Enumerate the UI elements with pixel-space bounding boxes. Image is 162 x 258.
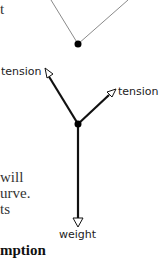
junction-dot bbox=[75, 121, 82, 128]
left-tension-arrowhead-icon bbox=[45, 68, 53, 78]
hanging-point-dot bbox=[75, 41, 82, 48]
hanging-rope-figure bbox=[51, 0, 128, 48]
label-right-tension: tension bbox=[118, 86, 159, 97]
label-weight: weight bbox=[59, 229, 96, 240]
label-left-tension: tension bbox=[1, 66, 42, 77]
free-body-diagram bbox=[45, 68, 116, 227]
weight-arrowhead-icon bbox=[73, 218, 83, 227]
